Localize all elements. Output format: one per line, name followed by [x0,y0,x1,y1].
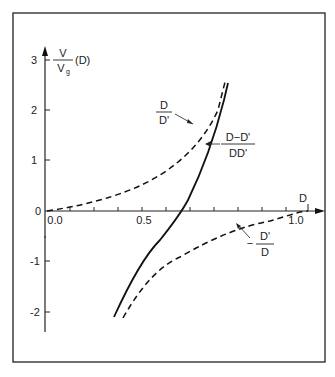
svg-text:D−D': D−D' [226,131,250,143]
y-ticks [45,60,50,312]
y-tick-label: 3 [31,54,37,66]
y-tick-label: 2 [31,104,37,116]
svg-text:D': D' [159,114,169,126]
series-solid-curve [114,83,228,317]
x-axis-label: D [299,192,307,204]
y-tick-label: -2 [30,306,40,318]
chart-figure: 3 2 1 0 -1 -2 0.0 0.5 1.0 D V V g (D) D … [0,0,335,377]
svg-text:DD': DD' [229,147,247,159]
x-tick-label: 0.5 [136,214,151,226]
arrowhead-icon [205,141,211,147]
svg-text:V: V [57,62,65,74]
annotation-d-over-dprime: D D' [156,99,193,126]
y-axis-arrow-icon [42,46,48,56]
svg-text:D: D [261,246,269,258]
x-tick-label: 1.0 [288,214,303,226]
arrowhead-icon [187,119,193,124]
x-axis-arrow-icon [315,208,325,214]
y-tick-label: -1 [30,255,40,267]
annotation-solid-curve: D−D' DD' [205,131,255,159]
y-tick-label: 0 [35,205,41,217]
svg-text:D': D' [260,230,270,242]
series-d-over-dprime [47,82,225,211]
svg-text:g: g [66,68,70,76]
x-ticks [70,204,308,211]
svg-text:D: D [160,99,168,111]
svg-text:V: V [59,47,67,59]
svg-text:−: − [247,237,253,249]
series-neg-dprime-over-d [123,211,308,318]
y-tick-label: 1 [31,154,37,166]
y-axis-label: V V g (D) [53,47,90,76]
x-tick-label: 0.0 [47,214,62,226]
svg-text:(D): (D) [75,54,90,66]
